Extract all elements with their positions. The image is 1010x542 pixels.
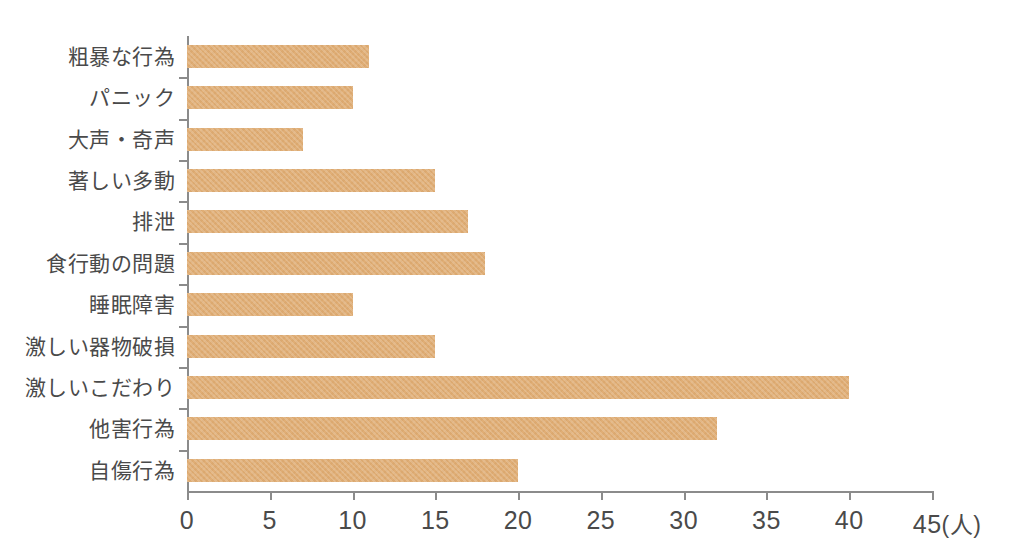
x-axis-tick bbox=[270, 491, 272, 500]
y-axis-tick bbox=[179, 77, 187, 79]
category-label: 大声・奇声 bbox=[68, 119, 176, 160]
y-axis-tick bbox=[179, 160, 187, 162]
x-axis-tick bbox=[766, 491, 768, 500]
x-axis-tick bbox=[353, 491, 355, 500]
bar-row: 著しい多動 bbox=[187, 160, 932, 201]
x-axis-tick bbox=[849, 491, 851, 500]
category-label: 激しいこだわり bbox=[25, 367, 176, 408]
bar-chart: 粗暴な行為パニック大声・奇声著しい多動排泄食行動の問題睡眠障害激しい器物破損激し… bbox=[0, 0, 1010, 542]
category-label: 著しい多動 bbox=[68, 160, 176, 201]
bar bbox=[187, 459, 518, 482]
axis-unit-label: (人) bbox=[942, 512, 982, 538]
bar-row: 排泄 bbox=[187, 201, 932, 242]
x-axis-tick bbox=[518, 491, 520, 500]
y-axis-tick bbox=[179, 119, 187, 121]
x-axis-tick-label: 20 bbox=[504, 506, 533, 535]
category-label: 睡眠障害 bbox=[89, 284, 175, 325]
bar-row: 食行動の問題 bbox=[187, 243, 932, 284]
bar-row: パニック bbox=[187, 77, 932, 118]
x-axis-tick-label: 40 bbox=[835, 506, 864, 535]
bar bbox=[187, 335, 435, 358]
bar-row: 睡眠障害 bbox=[187, 284, 932, 325]
category-label: 排泄 bbox=[132, 201, 175, 242]
bar bbox=[187, 128, 303, 151]
category-label: 食行動の問題 bbox=[46, 243, 175, 284]
x-axis-tick bbox=[187, 491, 189, 500]
bar bbox=[187, 376, 849, 399]
bar-row: 大声・奇声 bbox=[187, 119, 932, 160]
category-label: 他害行為 bbox=[89, 408, 175, 449]
bar bbox=[187, 45, 369, 68]
bar bbox=[187, 252, 485, 275]
bar bbox=[187, 417, 717, 440]
y-axis-tick bbox=[179, 201, 187, 203]
x-axis-tick-label: 30 bbox=[669, 506, 698, 535]
x-axis-tick-label: 25 bbox=[586, 506, 615, 535]
bar bbox=[187, 293, 353, 316]
bar-row: 粗暴な行為 bbox=[187, 36, 932, 77]
x-axis-tick bbox=[435, 491, 437, 500]
plot-area: 粗暴な行為パニック大声・奇声著しい多動排泄食行動の問題睡眠障害激しい器物破損激し… bbox=[187, 36, 932, 491]
category-label: 激しい器物破損 bbox=[25, 326, 176, 367]
bar bbox=[187, 86, 353, 109]
bar bbox=[187, 210, 468, 233]
y-axis-tick bbox=[179, 243, 187, 245]
y-axis-tick bbox=[179, 408, 187, 410]
y-axis-tick bbox=[179, 367, 187, 369]
category-label: パニック bbox=[89, 77, 175, 118]
x-axis-tick bbox=[601, 491, 603, 500]
bar-row: 自傷行為 bbox=[187, 450, 932, 491]
x-axis-tick-label: 15 bbox=[421, 506, 450, 535]
x-axis-tick-label: 45(人) bbox=[913, 506, 982, 540]
x-axis-tick-label: 10 bbox=[338, 506, 367, 535]
x-axis-tick-label: 0 bbox=[180, 506, 194, 535]
x-axis-tick-label: 35 bbox=[752, 506, 781, 535]
category-label: 自傷行為 bbox=[89, 450, 175, 491]
y-axis-tick bbox=[179, 450, 187, 452]
x-axis-tick-label: 5 bbox=[263, 506, 277, 535]
bar-row: 他害行為 bbox=[187, 408, 932, 449]
x-axis-tick bbox=[684, 491, 686, 500]
category-label: 粗暴な行為 bbox=[68, 36, 176, 77]
y-axis-tick bbox=[179, 326, 187, 328]
x-axis-line bbox=[187, 491, 932, 493]
y-axis-tick bbox=[179, 284, 187, 286]
bar-row: 激しいこだわり bbox=[187, 367, 932, 408]
x-axis-tick bbox=[932, 491, 934, 500]
bar bbox=[187, 169, 435, 192]
bar-row: 激しい器物破損 bbox=[187, 326, 932, 367]
